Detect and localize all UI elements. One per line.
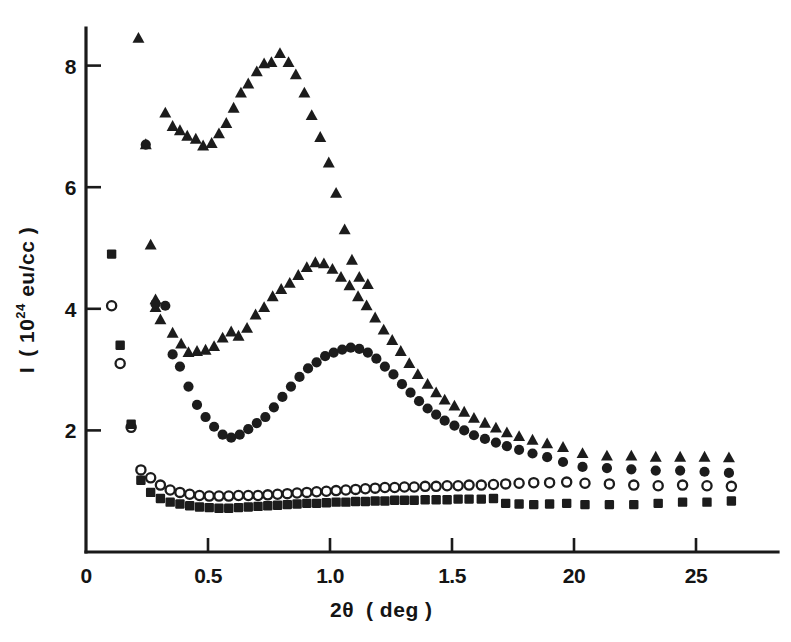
data-point bbox=[490, 422, 502, 433]
data-point bbox=[605, 500, 614, 509]
data-point bbox=[541, 437, 553, 448]
data-point bbox=[545, 478, 554, 487]
data-point bbox=[337, 344, 347, 354]
data-point bbox=[390, 496, 399, 505]
data-point bbox=[156, 494, 165, 503]
data-point bbox=[277, 392, 287, 402]
data-point bbox=[175, 361, 185, 371]
data-point bbox=[558, 457, 568, 467]
data-point bbox=[224, 491, 233, 500]
data-point bbox=[515, 479, 524, 488]
data-point bbox=[414, 396, 424, 406]
data-point bbox=[165, 497, 174, 506]
data-point bbox=[650, 451, 662, 462]
data-point bbox=[464, 481, 473, 490]
data-point bbox=[464, 494, 473, 503]
data-point bbox=[422, 378, 434, 389]
data-point bbox=[702, 497, 711, 506]
data-point bbox=[724, 468, 734, 478]
y-tick-label: 2 bbox=[65, 419, 76, 442]
data-point bbox=[601, 450, 613, 461]
data-point bbox=[292, 488, 301, 497]
data-point bbox=[727, 496, 736, 505]
x-title-theta: θ bbox=[342, 598, 354, 621]
data-point bbox=[400, 496, 409, 505]
data-point bbox=[132, 32, 144, 43]
svg-text:I( 1024 eu/cc ): I( 1024 eu/cc ) bbox=[13, 227, 38, 373]
data-point bbox=[361, 484, 370, 493]
data-point bbox=[283, 500, 292, 509]
data-point bbox=[269, 402, 279, 412]
data-point bbox=[545, 499, 554, 508]
data-point bbox=[491, 437, 501, 447]
data-point bbox=[185, 501, 194, 510]
data-point bbox=[501, 427, 513, 438]
data-point bbox=[410, 482, 419, 491]
data-point bbox=[225, 326, 237, 337]
data-point bbox=[529, 478, 538, 487]
data-point bbox=[449, 420, 459, 430]
data-point bbox=[303, 363, 313, 373]
data-point bbox=[167, 120, 179, 131]
data-point bbox=[501, 499, 510, 508]
data-point bbox=[397, 379, 407, 389]
data-point bbox=[274, 47, 286, 58]
data-point bbox=[405, 388, 415, 398]
data-point bbox=[159, 107, 171, 118]
data-point bbox=[214, 491, 223, 500]
data-point bbox=[294, 372, 304, 382]
data-point bbox=[468, 412, 480, 423]
data-point bbox=[220, 117, 232, 128]
data-point bbox=[651, 465, 661, 475]
data-point bbox=[312, 487, 321, 496]
data-point bbox=[275, 283, 287, 294]
series-filled-circle-series bbox=[141, 140, 734, 479]
data-point bbox=[331, 497, 340, 506]
data-point bbox=[529, 500, 538, 509]
data-point bbox=[322, 498, 331, 507]
data-point bbox=[107, 249, 116, 258]
data-point bbox=[674, 451, 686, 462]
plot-canvas: 00.51.01.52025 2468 2θ( deg ) I( 1024 eu… bbox=[0, 0, 791, 642]
data-point bbox=[241, 322, 253, 333]
data-point bbox=[542, 452, 552, 462]
data-point bbox=[370, 496, 379, 505]
data-point bbox=[156, 481, 165, 490]
data-point bbox=[339, 223, 351, 234]
data-point bbox=[150, 299, 160, 309]
data-point bbox=[557, 441, 569, 452]
data-point bbox=[146, 473, 155, 482]
data-point bbox=[214, 504, 223, 513]
data-point bbox=[312, 499, 321, 508]
data-point bbox=[253, 502, 262, 511]
data-point bbox=[380, 361, 390, 371]
data-point bbox=[228, 102, 240, 113]
data-point bbox=[577, 447, 589, 458]
data-point bbox=[213, 127, 225, 138]
data-point bbox=[602, 463, 612, 473]
svg-text:2θ( deg ): 2θ( deg ) bbox=[330, 598, 433, 621]
data-point bbox=[369, 312, 381, 323]
data-point bbox=[562, 499, 571, 508]
data-point bbox=[175, 499, 184, 508]
data-point bbox=[527, 448, 537, 458]
data-point bbox=[580, 500, 589, 509]
data-point bbox=[263, 501, 272, 510]
data-point bbox=[154, 313, 166, 324]
data-point bbox=[577, 462, 587, 472]
data-point bbox=[290, 68, 302, 79]
data-point bbox=[242, 78, 254, 89]
data-point bbox=[244, 502, 253, 511]
data-point bbox=[371, 354, 381, 364]
y-title-rest: eu/cc ) bbox=[15, 227, 38, 303]
data-point bbox=[678, 481, 687, 490]
data-point bbox=[323, 157, 335, 168]
data-point bbox=[330, 187, 342, 198]
data-point bbox=[346, 343, 356, 353]
data-point bbox=[400, 482, 409, 491]
data-point bbox=[341, 497, 350, 506]
data-point bbox=[351, 497, 360, 506]
x-tick-label: 1.0 bbox=[316, 564, 344, 587]
data-point bbox=[380, 496, 389, 505]
data-point bbox=[243, 424, 253, 434]
